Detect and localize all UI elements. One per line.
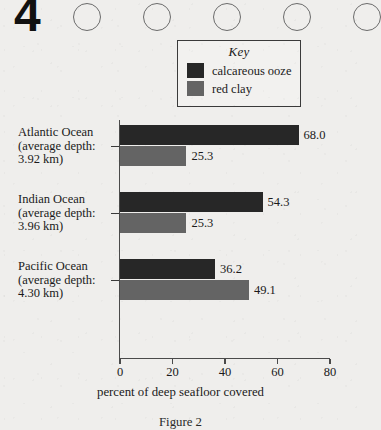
legend-items: calcareous oozered clay	[178, 63, 300, 96]
answer-bubble-3[interactable]	[213, 3, 241, 31]
legend-label-1: red clay	[212, 82, 252, 96]
chart-legend: Key calcareous oozered clay	[177, 40, 301, 107]
legend-swatch-icon-0	[187, 63, 204, 78]
x-tick-label-0: 0	[117, 365, 123, 380]
figure-caption: Figure 2	[0, 415, 361, 430]
category-label-line-0-0: Atlantic Ocean	[18, 126, 118, 140]
bar-value-1-1: 25.3	[191, 213, 213, 233]
x-tick-40	[224, 359, 225, 364]
bar-value-2-1: 49.1	[254, 280, 276, 300]
bar-value-2-0: 36.2	[220, 259, 242, 279]
legend-label-0: calcareous ooze	[212, 64, 291, 78]
question-number: 4	[14, 0, 40, 39]
category-label-line-1-1: (average depth:	[18, 207, 118, 221]
bar-1-0	[120, 192, 263, 212]
x-tick-label-40: 40	[219, 365, 232, 380]
bar-0-1	[120, 146, 186, 166]
bar-2-0	[120, 259, 215, 279]
bar-2-1	[120, 280, 249, 300]
category-label-1: Indian Ocean(average depth:3.96 km)	[18, 193, 118, 234]
x-axis-title: percent of deep seafloor covered	[0, 385, 361, 400]
bar-0-0	[120, 125, 299, 145]
x-tick-label-20: 20	[166, 365, 179, 380]
category-label-2: Pacific Ocean(average depth:4.30 km)	[18, 260, 118, 301]
x-tick-label-60: 60	[271, 365, 284, 380]
category-label-0: Atlantic Ocean(average depth:3.92 km)	[18, 126, 118, 167]
legend-item-0: calcareous ooze	[187, 63, 300, 78]
bar-value-1-0: 54.3	[268, 192, 290, 212]
legend-item-1: red clay	[187, 81, 300, 96]
x-tick-80	[329, 359, 330, 364]
category-leader-dash-0	[111, 146, 119, 147]
legend-title: Key	[178, 44, 300, 60]
category-label-line-1-0: Indian Ocean	[18, 193, 118, 207]
category-label-line-0-1: (average depth:	[18, 140, 118, 154]
category-leader-dash-2	[111, 280, 119, 281]
answer-bubble-4[interactable]	[283, 3, 311, 31]
bar-value-0-0: 68.0	[304, 125, 326, 145]
legend-swatch-icon-1	[187, 81, 204, 96]
bar-chart-plot-area: 020406080 Atlantic Ocean(average depth:3…	[0, 112, 361, 362]
answer-bubble-2[interactable]	[143, 3, 171, 31]
category-label-line-2-1: (average depth:	[18, 274, 118, 288]
bar-value-0-1: 25.3	[191, 146, 213, 166]
answer-bubble-1[interactable]	[73, 3, 101, 31]
x-tick-20	[172, 359, 173, 364]
x-tick-0	[119, 359, 120, 364]
category-label-line-0-2: 3.92 km)	[18, 153, 118, 167]
category-label-line-2-2: 4.30 km)	[18, 287, 118, 301]
bar-1-1	[120, 213, 186, 233]
answer-bubble-5[interactable]	[353, 3, 381, 31]
category-leader-dash-1	[111, 213, 119, 214]
x-tick-60	[277, 359, 278, 364]
category-label-line-1-2: 3.96 km)	[18, 220, 118, 234]
category-label-line-2-0: Pacific Ocean	[18, 260, 118, 274]
x-tick-label-80: 80	[324, 365, 337, 380]
